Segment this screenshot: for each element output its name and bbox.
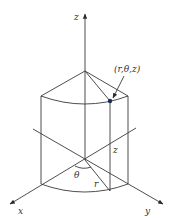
x-axis: [10, 128, 136, 204]
angle-label: θ: [74, 170, 80, 180]
radius-label: r: [94, 179, 99, 189]
z-axis-label: z: [73, 12, 79, 22]
angle-arc: [75, 166, 91, 168]
y-axis: [33, 129, 163, 204]
top-left-radius: [41, 71, 85, 96]
point-marker: [108, 99, 112, 103]
height-label: z: [112, 145, 118, 155]
top-arc: [41, 96, 128, 104]
top-right-radius: [85, 71, 128, 96]
x-axis-label: x: [18, 206, 23, 216]
point-label: (r,θ,z): [114, 64, 141, 74]
top-point-radius: [85, 71, 110, 101]
label-pointer: [113, 76, 124, 98]
cylindrical-coordinates-diagram: z x y (r,θ,z) z r θ: [0, 0, 173, 218]
y-axis-label: y: [144, 206, 151, 216]
bottom-arc: [41, 184, 128, 192]
